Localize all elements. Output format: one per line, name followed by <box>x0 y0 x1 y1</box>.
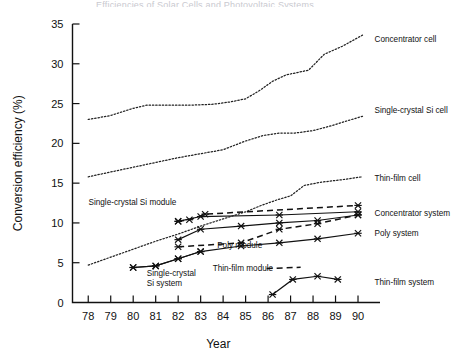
series-label-thin-film-cell: Thin-film cell <box>375 174 421 183</box>
x-tick-label: 88 <box>307 310 319 322</box>
series-label-concentrator-system: Concentrator system <box>375 209 451 218</box>
data-point-marker <box>314 236 321 242</box>
y-tick-label: 5 <box>57 257 63 269</box>
series-line <box>178 215 358 247</box>
data-point-marker <box>269 291 276 297</box>
data-point-marker <box>174 256 181 262</box>
data-point-marker <box>314 221 321 227</box>
single-crystal-si-system-label-line1: Single-crystal <box>147 269 196 278</box>
y-axis-title: Conversion efficiency (%) <box>11 95 25 231</box>
x-tick-label: 81 <box>150 310 162 322</box>
series-label-poly-system: Poly system <box>375 229 419 238</box>
series-single-crystal-si-cell <box>88 116 362 176</box>
data-point-marker <box>130 264 137 270</box>
y-tick-label: 15 <box>51 177 63 189</box>
data-point-marker <box>276 240 283 246</box>
x-tick-label: 82 <box>172 310 184 322</box>
x-tick-label: 78 <box>82 310 94 322</box>
x-tick-label: 87 <box>284 310 296 322</box>
x-tick-label: 84 <box>217 310 229 322</box>
series-line <box>88 35 362 119</box>
chart-figure: 0510152025303578798081828384858687888990… <box>0 0 460 360</box>
series-single-crystal-si-system <box>130 248 205 270</box>
series-line <box>178 212 358 222</box>
data-point-marker <box>276 212 283 218</box>
y-tick-label: 35 <box>51 18 63 30</box>
y-tick-label: 0 <box>57 297 63 309</box>
series-line <box>178 215 358 240</box>
data-point-marker <box>197 248 204 254</box>
series-label-single-crystal-si-cell: Single-crystal Si cell <box>375 106 448 115</box>
data-point-marker <box>276 220 283 226</box>
series-single-crystal-si-module <box>174 202 361 224</box>
series-label-poly-module: Poly module <box>217 241 263 250</box>
data-point-marker <box>174 237 181 243</box>
series-thin-film-system <box>269 273 342 298</box>
axes: 0510152025303578798081828384858687888990… <box>11 18 380 351</box>
data-point-marker <box>289 276 296 282</box>
series-concentrator-cell <box>88 35 362 119</box>
x-tick-label: 89 <box>329 310 341 322</box>
series-label-concentrator-cell: Concentrator cell <box>375 35 437 44</box>
data-point-marker <box>314 273 321 279</box>
data-point-marker <box>354 202 361 208</box>
data-point-marker <box>152 263 159 269</box>
y-tick-label: 30 <box>51 58 63 70</box>
data-point-marker <box>197 226 204 232</box>
x-tick-label: 83 <box>195 310 207 322</box>
series-line <box>133 252 200 268</box>
series-thin-film-cell <box>88 177 362 265</box>
y-tick-label: 25 <box>51 98 63 110</box>
axis-lines <box>73 24 381 303</box>
data-point-marker <box>354 230 361 236</box>
plot-area <box>88 35 362 298</box>
x-axis-title: Year <box>206 337 230 351</box>
series-line <box>273 276 338 294</box>
data-point-marker <box>334 276 341 282</box>
data-point-marker <box>174 244 181 250</box>
y-tick-label: 20 <box>51 137 63 149</box>
x-tick-label: 80 <box>127 310 139 322</box>
series-labels: Concentrator cellSingle-crystal Si cellT… <box>88 35 450 288</box>
series-line <box>88 177 362 265</box>
series-label-thin-film-system: Thin-film system <box>375 278 435 287</box>
x-tick-label: 79 <box>105 310 117 322</box>
x-tick-label: 86 <box>262 310 274 322</box>
x-tick-label: 85 <box>239 310 251 322</box>
data-point-marker <box>237 223 244 229</box>
series-label-single-crystal-si-module: Single-crystal Si module <box>88 198 176 207</box>
data-point-marker <box>276 226 283 232</box>
series-line <box>88 116 362 176</box>
data-point-marker <box>197 213 204 219</box>
x-tick-label: 90 <box>352 310 364 322</box>
series-label-thin-film-module: Thin-film module <box>213 264 274 273</box>
single-crystal-si-system-label-line2: Si system <box>147 279 183 288</box>
y-tick-label: 10 <box>51 217 63 229</box>
data-point-marker <box>354 212 361 218</box>
data-point-marker <box>174 218 181 224</box>
